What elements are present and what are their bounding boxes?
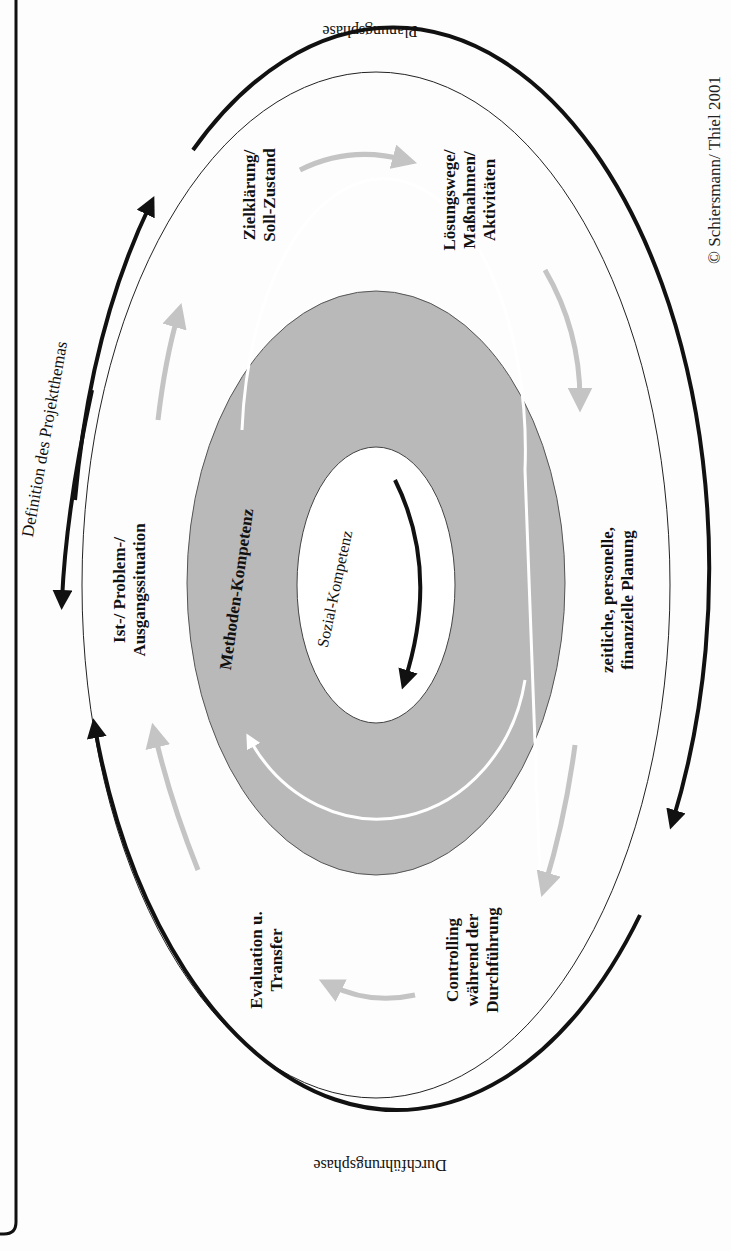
svg-text:Ausgangssituation: Ausgangssituation xyxy=(130,523,149,657)
step-planung: zeitliche, personelle, finanzielle Planu… xyxy=(598,527,637,673)
svg-text:Transfer: Transfer xyxy=(267,928,286,991)
svg-text:Lösungswege/: Lösungswege/ xyxy=(440,149,459,250)
step-controlling: Controlling während der Durchführung xyxy=(443,907,502,1013)
gray-arrow-ist-to-ziel xyxy=(158,315,178,420)
step-ist: Ist-/ Problem-/ Ausgangssituation xyxy=(110,523,149,657)
gray-arrow-loesung-to-planung xyxy=(545,270,580,400)
execution-phase-label: Durchführungsphase xyxy=(313,1156,446,1174)
svg-text:finanzielle Planung: finanzielle Planung xyxy=(618,530,637,670)
gray-arrow-planung-to-controlling xyxy=(545,745,575,885)
svg-text:zeitliche, personelle,: zeitliche, personelle, xyxy=(598,527,617,673)
planning-phase-label: Planungsphase xyxy=(322,22,417,40)
svg-text:Evaluation u.: Evaluation u. xyxy=(247,911,266,1008)
definition-label: Definition des Projektthemas xyxy=(18,340,71,539)
sozial-kompetenz-core xyxy=(297,447,455,723)
step-loesung: Lösungswege/ Maßnahmen/ Aktivitäten xyxy=(440,149,499,250)
gray-arrow-ziel-to-loesung xyxy=(300,154,405,170)
svg-text:Controlling: Controlling xyxy=(443,918,462,1002)
project-cycle-diagram: Planungsphase Durchführungsphase Definit… xyxy=(0,0,731,1251)
gray-arrow-evaluation-to-ist xyxy=(155,735,198,870)
gray-arrow-controlling-to-evaluation xyxy=(330,985,415,998)
svg-text:Zielklärung/: Zielklärung/ xyxy=(240,149,259,240)
svg-text:Aktivitäten: Aktivitäten xyxy=(480,158,499,241)
copyright-notice: © Schiersmann/ Thiel 2001 xyxy=(705,76,724,264)
svg-text:Maßnahmen/: Maßnahmen/ xyxy=(460,151,479,249)
definition-arrow-up xyxy=(75,205,150,500)
svg-text:während der: während der xyxy=(463,913,482,1006)
step-ziel: Zielklärung/ Soll-Zustand xyxy=(240,148,279,242)
step-evaluation: Evaluation u. Transfer xyxy=(247,911,286,1008)
svg-text:Soll-Zustand: Soll-Zustand xyxy=(260,148,279,242)
page-border xyxy=(0,0,16,1234)
svg-text:Ist-/ Problem-/: Ist-/ Problem-/ xyxy=(110,537,129,643)
svg-text:Durchführung: Durchführung xyxy=(483,907,502,1013)
